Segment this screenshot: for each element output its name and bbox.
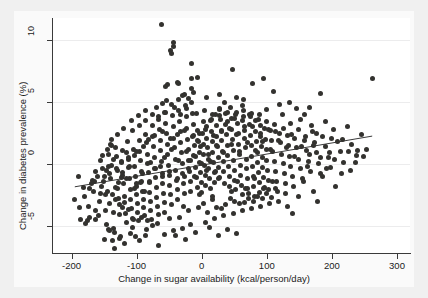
data-point — [175, 187, 180, 192]
data-point — [307, 152, 312, 157]
data-point — [244, 166, 249, 171]
data-point — [212, 216, 217, 221]
data-point — [214, 123, 219, 128]
data-point — [135, 210, 140, 215]
data-point — [339, 171, 344, 176]
data-point — [211, 133, 216, 138]
data-point — [175, 197, 180, 202]
data-point — [302, 112, 307, 117]
data-point — [122, 241, 127, 246]
x-tick-mark — [332, 254, 333, 259]
data-point — [246, 191, 251, 196]
data-point — [210, 112, 215, 117]
data-point — [324, 166, 329, 171]
data-point — [264, 107, 269, 112]
data-point — [186, 166, 191, 171]
data-point — [130, 128, 135, 133]
data-point — [141, 144, 146, 149]
x-axis-line — [52, 253, 411, 254]
data-point — [143, 118, 148, 123]
data-point — [204, 168, 209, 173]
data-point — [228, 105, 233, 110]
data-point — [281, 126, 286, 131]
data-point — [178, 112, 183, 117]
data-point — [132, 186, 137, 191]
x-tick-mark — [267, 254, 268, 259]
data-point — [257, 180, 262, 185]
data-point — [180, 161, 185, 166]
data-point — [97, 199, 102, 204]
data-point — [111, 210, 116, 215]
data-point — [261, 76, 266, 81]
data-point — [287, 100, 292, 105]
data-point — [136, 113, 141, 118]
data-point — [181, 181, 186, 186]
data-point — [162, 110, 167, 115]
data-point — [284, 145, 289, 150]
data-point — [256, 170, 261, 175]
data-point — [217, 92, 222, 97]
data-point — [234, 95, 239, 100]
data-point — [219, 206, 224, 211]
data-point — [208, 159, 213, 164]
data-point — [242, 128, 247, 133]
data-point — [210, 150, 215, 155]
data-point — [112, 230, 117, 235]
data-point — [182, 174, 187, 179]
data-point — [308, 169, 313, 174]
data-point — [221, 169, 226, 174]
data-point — [160, 101, 165, 106]
data-point — [289, 132, 294, 137]
data-point — [122, 200, 127, 205]
data-point — [346, 149, 351, 154]
data-point — [207, 225, 212, 230]
data-point — [241, 97, 246, 102]
data-point — [281, 161, 286, 166]
data-point — [156, 243, 161, 248]
data-point — [148, 199, 153, 204]
data-point — [236, 142, 241, 147]
data-point — [171, 124, 176, 129]
data-point — [105, 147, 110, 152]
data-point — [138, 158, 143, 163]
data-point — [146, 170, 151, 175]
data-point — [249, 206, 254, 211]
data-point — [219, 138, 224, 143]
data-point — [348, 168, 353, 173]
data-point — [349, 142, 354, 147]
data-point — [115, 132, 120, 137]
data-point — [204, 95, 209, 100]
data-point — [229, 189, 234, 194]
data-point — [155, 204, 160, 209]
data-point — [189, 76, 194, 81]
data-point — [331, 127, 336, 132]
data-point — [145, 152, 150, 157]
data-point — [152, 133, 157, 138]
data-point — [264, 119, 269, 124]
data-point — [119, 160, 124, 165]
data-point — [276, 138, 281, 143]
data-point — [217, 107, 222, 112]
data-point — [296, 157, 301, 162]
data-point — [298, 117, 303, 122]
data-point — [106, 152, 111, 157]
data-point — [76, 174, 81, 179]
data-point — [288, 121, 293, 126]
data-point — [145, 218, 150, 223]
data-point — [86, 204, 91, 209]
data-point — [104, 168, 109, 173]
data-point — [141, 205, 146, 210]
data-point — [178, 140, 183, 145]
data-point — [102, 237, 107, 242]
data-point — [188, 222, 193, 227]
data-point — [370, 76, 375, 81]
data-point — [177, 119, 182, 124]
data-point — [230, 137, 235, 142]
data-point — [294, 106, 299, 111]
data-point — [116, 180, 121, 185]
data-point — [227, 184, 232, 189]
data-point — [258, 131, 263, 136]
data-point — [229, 142, 234, 147]
data-point — [124, 220, 129, 225]
data-point — [162, 200, 167, 205]
